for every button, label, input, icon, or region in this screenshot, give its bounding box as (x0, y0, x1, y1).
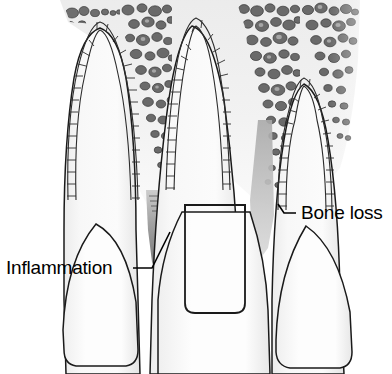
bone-right-edge-fade (330, 0, 392, 200)
bone-loss-label: Bone loss (301, 202, 383, 223)
periodontal-diagram: Inflammation Bone loss (0, 0, 392, 374)
inflammation-label: Inflammation (6, 257, 112, 278)
tooth-middle-crown (158, 212, 270, 374)
illustration-canvas: Inflammation Bone loss (0, 0, 392, 374)
